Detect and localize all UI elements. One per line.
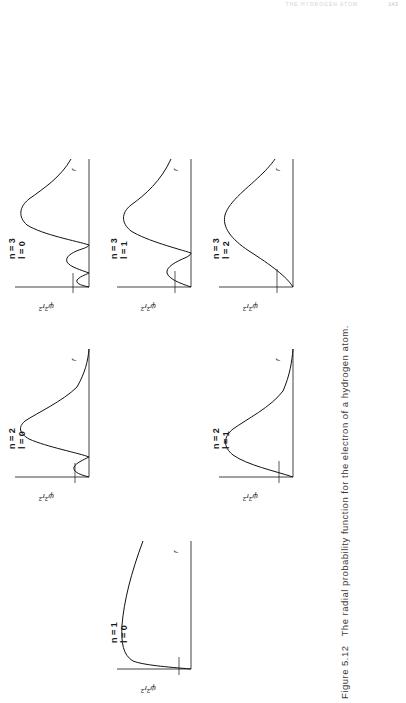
quantum-number-label: n = 3 l = 1 [109, 238, 129, 259]
figure-caption: Figure 5.12The radial probability functi… [339, 139, 350, 699]
y-axis-label: ψ2r2 [118, 684, 178, 695]
plot-area [219, 157, 297, 295]
quantum-number-label: n = 2 l = 0 [7, 428, 27, 449]
n-label: n = 2 [211, 428, 221, 449]
panel-n2-l1: ψ2r2 n = 2 l = 1 r [215, 341, 311, 511]
page-header: THE HYDROGEN ATOM 143 [0, 1, 406, 13]
quantum-number-label: n = 1 l = 0 [109, 622, 129, 643]
plot-area [117, 157, 195, 295]
panel-n3-l2: ψ2r2 n = 3 l = 2 r [215, 151, 311, 321]
radial-curve [224, 159, 293, 287]
figure-caption-number: Figure 5.12 [339, 645, 350, 699]
plot-area [219, 347, 297, 485]
plot-svg [117, 539, 195, 677]
plot-area [117, 539, 195, 677]
quantum-number-label: n = 2 l = 1 [211, 428, 231, 449]
quantum-number-label: n = 3 l = 2 [211, 238, 231, 259]
plot-area [15, 347, 93, 485]
plot-area [15, 157, 93, 295]
x-axis-label: r [273, 168, 282, 171]
y-axis-label: ψ2r2 [118, 302, 178, 313]
plot-svg [219, 157, 297, 295]
n-label: n = 2 [7, 428, 17, 449]
x-axis-label: r [171, 168, 180, 171]
radial-curve [21, 159, 89, 287]
l-label: l = 1 [119, 238, 129, 259]
n-label: n = 3 [211, 238, 221, 259]
radial-curve [124, 159, 192, 287]
n-label: n = 3 [109, 238, 119, 259]
quantum-number-label: n = 3 l = 0 [7, 238, 27, 259]
x-axis-label: r [171, 550, 180, 553]
y-axis-label: ψ2r2 [16, 492, 76, 503]
n-label: n = 3 [7, 238, 17, 259]
panel-n3-l0: ψ2r2 n = 3 l = 0 r [11, 151, 107, 321]
panel-grid: ψ2r2 n = 1 l = 0 r ψ2r2 [3, 121, 321, 703]
plot-svg [15, 347, 93, 485]
page-folio: 143 [388, 1, 398, 7]
x-axis-label: r [69, 168, 78, 171]
l-label: l = 0 [119, 622, 129, 643]
plot-svg [219, 347, 297, 485]
figure-plate: ψ2r2 n = 1 l = 0 r ψ2r2 [3, 121, 383, 703]
l-label: l = 2 [221, 238, 231, 259]
y-axis-label: ψ2r2 [220, 492, 280, 503]
l-label: l = 1 [221, 428, 231, 449]
radial-curve [122, 541, 191, 669]
plot-svg [117, 157, 195, 295]
n-label: n = 1 [109, 622, 119, 643]
figure-caption-text: The radial probability function for the … [339, 325, 350, 636]
panel-n3-l1: ψ2r2 n = 3 l = 1 r [113, 151, 209, 321]
radial-curve [226, 349, 294, 477]
y-axis-label: ψ2r2 [16, 302, 76, 313]
panel-n1-l0: ψ2r2 n = 1 l = 0 r [113, 533, 209, 703]
radial-curve [20, 349, 89, 477]
l-label: l = 0 [17, 428, 27, 449]
x-axis-label: r [69, 358, 78, 361]
x-axis-label: r [273, 358, 282, 361]
l-label: l = 0 [17, 238, 27, 259]
running-head: THE HYDROGEN ATOM [286, 1, 358, 7]
y-axis-label: ψ2r2 [220, 302, 280, 313]
plot-svg [15, 157, 93, 295]
panel-n2-l0: ψ2r2 n = 2 l = 0 r [11, 341, 107, 511]
